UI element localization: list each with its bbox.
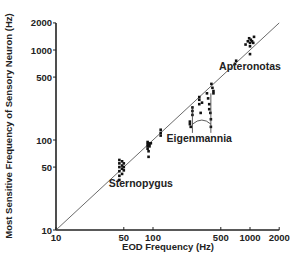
group-label-apteronotas: Apteronotas — [219, 60, 281, 72]
annotations: ApteronotasEigenmanniaSternopygus — [109, 60, 281, 189]
y-axis-title: Most Sensitive Frequency of Sensory Neur… — [3, 13, 14, 238]
x-tick-label: 10 — [51, 232, 62, 243]
group-label-sternopygus: Sternopygus — [109, 177, 173, 189]
y-tick-label: 500 — [36, 72, 52, 83]
series-sternopygus-higher-eod- — [146, 128, 162, 158]
identity-line — [56, 23, 279, 230]
y-tick-label: 10 — [41, 225, 52, 236]
chart: 105010050010002000105010050010002000 Apt… — [0, 0, 305, 266]
y-tick-label: 50 — [41, 162, 52, 173]
y-tick-label: 2000 — [31, 17, 52, 28]
y-tick-label: 100 — [36, 135, 52, 146]
y-tick-label: 1000 — [31, 45, 52, 56]
x-axis-title: EOD Frequency (Hz) — [122, 241, 214, 252]
x-tick-label: 500 — [213, 232, 229, 243]
x-tick-label: 1000 — [239, 232, 260, 243]
x-tick-label: 2000 — [269, 232, 290, 243]
group-label-eigenmannia: Eigenmannia — [167, 132, 233, 144]
